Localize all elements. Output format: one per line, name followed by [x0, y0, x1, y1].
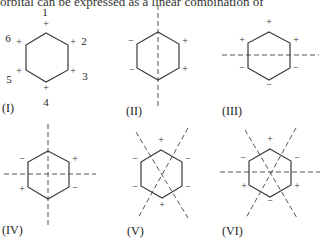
sign-5-1: + — [158, 134, 164, 145]
sign-6-5: + — [241, 180, 247, 191]
sign-3-5: − — [239, 62, 245, 73]
panel-label-2: (II) — [126, 104, 142, 119]
sign-5-3: − — [185, 181, 191, 192]
panel-5: + − − + − − — [132, 128, 191, 218]
sign-1-5: + — [16, 65, 22, 76]
sign-6-4: − — [267, 195, 273, 206]
panel-label-3: (III) — [222, 104, 242, 119]
sign-2-2: + — [182, 35, 188, 46]
sign-1-6: + — [16, 36, 22, 47]
sign-3-6: + — [239, 34, 245, 45]
panel-6: + − + − + − — [220, 128, 320, 218]
panel-label-4: (IV) — [2, 223, 23, 238]
panel-label-1: (I) — [2, 101, 14, 116]
sign-2-5: − — [129, 64, 135, 75]
sign-6-2: − — [294, 152, 300, 163]
vertex-number-2: 2 — [81, 35, 87, 47]
sign-4-2: + — [72, 153, 78, 164]
sign-5-4: + — [159, 199, 165, 210]
panel-3: + + − − − + — [222, 16, 319, 90]
sign-3-4: − — [266, 79, 272, 90]
sign-6-6: − — [240, 152, 246, 163]
sign-5-2: − — [185, 153, 191, 164]
vertex-number-3: 3 — [82, 70, 88, 82]
sign-1-1: + — [43, 18, 49, 29]
sign-3-1: + — [266, 16, 272, 27]
panel-1: + + + + + + 1 2 3 4 5 6 — [5, 6, 88, 108]
vertex-number-6: 6 — [5, 32, 11, 44]
benzene-hexagon-1 — [26, 33, 68, 82]
sign-2-6: − — [128, 35, 134, 46]
sign-5-5: − — [132, 181, 138, 192]
huckel-mo-diagrams: + + + + + + 1 2 3 4 5 6 + + − − + + − − … — [0, 0, 321, 239]
sign-6-3: + — [294, 180, 300, 191]
sign-2-3: + — [182, 63, 188, 74]
sign-4-5: + — [19, 183, 25, 194]
sign-1-2: + — [70, 36, 76, 47]
panel-label-6: (VI) — [222, 224, 243, 239]
sign-4-6: − — [19, 153, 25, 164]
sign-5-6: − — [132, 153, 138, 164]
sign-1-3: + — [70, 65, 76, 76]
vertex-number-1: 1 — [42, 6, 48, 18]
panel-4: + − + − — [4, 124, 96, 227]
panel-label-5: (V) — [127, 224, 144, 239]
vertex-number-4: 4 — [43, 96, 49, 108]
sign-6-1: + — [267, 133, 273, 144]
sign-3-2: + — [293, 34, 299, 45]
sign-3-3: − — [293, 62, 299, 73]
sign-1-4: + — [43, 82, 49, 93]
sign-4-3: − — [72, 182, 78, 193]
panel-2: + + − − — [128, 5, 188, 108]
benzene-hexagon-3 — [248, 32, 290, 80]
vertex-number-5: 5 — [6, 73, 12, 85]
